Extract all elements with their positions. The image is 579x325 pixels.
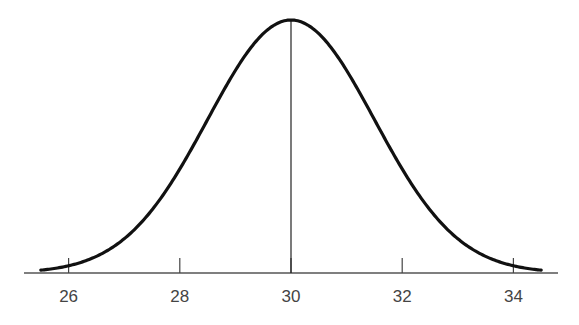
x-axis-tick-labels: 2628303234 <box>59 287 523 306</box>
x-tick-label: 26 <box>59 287 78 306</box>
x-tick-label: 34 <box>504 287 523 306</box>
x-tick-label: 30 <box>282 287 301 306</box>
x-tick-label: 28 <box>170 287 189 306</box>
x-tick-label: 32 <box>393 287 412 306</box>
normal-curve-chart: 2628303234 <box>0 0 579 325</box>
